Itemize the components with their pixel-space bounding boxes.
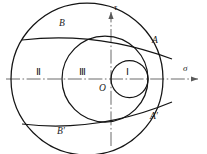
tau-axis-label: τ	[114, 2, 117, 12]
sigma-axis-label: σ	[183, 63, 187, 73]
point-b-prime-label: B′	[57, 126, 65, 136]
diagram-canvas	[0, 0, 207, 154]
circle-two	[11, 3, 163, 154]
tau-axis-arrowhead	[108, 12, 113, 19]
point-b-label: B	[59, 18, 65, 28]
origin-label: O	[99, 83, 106, 93]
point-a-prime-label: A′	[150, 111, 158, 121]
region-label-two: Ⅱ	[36, 66, 41, 77]
mohr-circle-figure: τ σ O A A′ B B′ Ⅱ Ⅲ Ⅰ	[0, 0, 207, 154]
upper-tangent-envelope	[22, 38, 172, 59]
sigma-axis-arrowhead	[191, 76, 198, 81]
region-label-three: Ⅲ	[79, 66, 86, 77]
region-label-one: Ⅰ	[126, 66, 129, 77]
point-a-label: A	[152, 35, 158, 45]
